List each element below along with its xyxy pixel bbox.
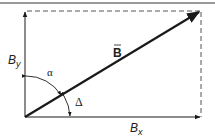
vector-diagram: B By Bx α Δ	[0, 0, 215, 138]
delta-angle-arc	[64, 96, 70, 116]
alpha-label: α	[47, 66, 53, 78]
bx-label: Bx	[130, 121, 143, 137]
vector-label: B	[113, 46, 122, 60]
delta-label: Δ	[75, 95, 83, 109]
alpha-angle-arc	[26, 76, 61, 95]
by-label: By	[8, 53, 21, 69]
b-vector-arrow	[25, 12, 199, 117]
